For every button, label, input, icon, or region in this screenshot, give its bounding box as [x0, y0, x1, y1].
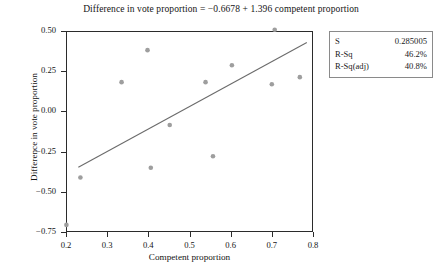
data-point [298, 75, 303, 80]
stat-label-rsq-adj: R-Sq(adj) [335, 60, 369, 73]
stat-value-s: 0.285005 [395, 35, 427, 48]
x-tick-mark [313, 232, 314, 237]
data-point [119, 80, 124, 85]
data-point [167, 123, 172, 128]
stat-value-rsq-adj: 40.8% [405, 60, 427, 73]
y-tick-label: −0.25 [22, 146, 56, 156]
x-tick-label: 0.8 [296, 240, 330, 250]
plot-canvas [66, 31, 313, 232]
data-point [272, 27, 277, 32]
data-point [64, 223, 69, 228]
statistics-box: S 0.285005 R-Sq 46.2% R-Sq(adj) 40.8% [329, 31, 433, 78]
y-tick-mark [61, 152, 66, 153]
x-tick-mark [231, 232, 232, 237]
x-tick-mark [148, 232, 149, 237]
x-tick-label: 0.3 [90, 240, 124, 250]
stat-label-s: S [335, 35, 340, 48]
data-point [78, 175, 83, 180]
x-axis-title: Competent proportion [66, 252, 313, 262]
x-tick-label: 0.6 [214, 240, 248, 250]
x-tick-mark [107, 232, 108, 237]
y-tick-label: −0.75 [22, 226, 56, 236]
data-point [149, 165, 154, 170]
y-tick-mark [61, 31, 66, 32]
x-tick-label: 0.2 [49, 240, 83, 250]
y-axis-title: Difference in vote proportion [29, 27, 39, 227]
x-tick-label: 0.4 [131, 240, 165, 250]
scatter-points [64, 27, 302, 227]
y-tick-label: 0.25 [22, 65, 56, 75]
y-tick-label: −0.50 [22, 186, 56, 196]
stat-row-rsq-adj: R-Sq(adj) 40.8% [335, 60, 427, 73]
data-point [270, 82, 275, 87]
y-tick-mark [61, 111, 66, 112]
stat-row-rsq: R-Sq 46.2% [335, 48, 427, 61]
regression-line-segment [78, 43, 306, 168]
chart-title: Difference in vote proportion = −0.6678 … [0, 4, 442, 14]
stat-label-rsq: R-Sq [335, 48, 353, 61]
stat-value-rsq: 46.2% [405, 48, 427, 61]
x-tick-label: 0.7 [255, 240, 289, 250]
data-point [230, 63, 235, 68]
y-tick-mark [61, 192, 66, 193]
data-point [203, 80, 208, 85]
y-tick-label: 0.50 [22, 25, 56, 35]
regression-line [78, 43, 306, 168]
fitted-line-plot: Difference in vote proportion = −0.6678 … [0, 0, 442, 280]
stat-row-s: S 0.285005 [335, 35, 427, 48]
data-point [145, 48, 150, 53]
y-tick-label: 0.00 [22, 105, 56, 115]
x-tick-mark [272, 232, 273, 237]
y-tick-mark [61, 71, 66, 72]
data-point [211, 154, 216, 159]
x-tick-label: 0.5 [173, 240, 207, 250]
x-tick-mark [190, 232, 191, 237]
x-tick-mark [66, 232, 67, 237]
